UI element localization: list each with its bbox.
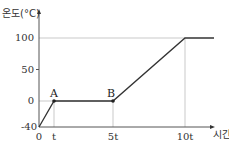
y-tick-50: 50 — [21, 64, 34, 75]
label-b: B — [107, 87, 115, 100]
y-axis-title: 온도(°C) — [2, 8, 40, 19]
temperature-line — [39, 38, 214, 127]
y-tick-0: 0 — [28, 95, 34, 106]
x-tick-0: 0 — [36, 131, 42, 142]
x-tick-10t: 10t — [177, 131, 194, 142]
label-a: A — [49, 87, 59, 100]
y-tick-100: 100 — [15, 32, 34, 43]
chart: 온도(°C) 시간 100 50 0 -40 0 t 5t 10t A B — [0, 0, 229, 146]
x-tick-t: t — [52, 131, 56, 142]
guide-lines — [39, 38, 185, 127]
y-tick-neg40: -40 — [21, 121, 37, 132]
axes — [36, 12, 212, 127]
x-tick-5t: 5t — [108, 131, 118, 142]
x-axis-title: 시간 — [213, 129, 229, 140]
